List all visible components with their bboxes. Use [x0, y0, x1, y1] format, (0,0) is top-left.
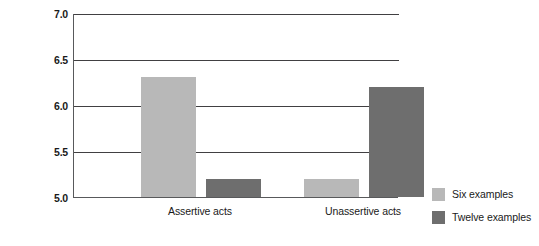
gridline	[74, 14, 399, 15]
gridline	[74, 106, 399, 107]
bar	[141, 77, 196, 197]
x-axis-category-label: Unassertive acts	[325, 205, 401, 217]
legend-item-label: Six examples	[452, 188, 513, 200]
light-gray-swatch-icon	[432, 188, 445, 201]
legend-item-label: Twelve examples	[452, 211, 531, 223]
gridline	[74, 152, 399, 153]
y-axis-tick-label: 7.0	[54, 8, 68, 20]
plot-area: 5.05.56.06.57.0	[73, 14, 398, 198]
y-axis-tick-label: 5.0	[54, 192, 68, 204]
legend-item: Twelve examples	[432, 207, 537, 227]
x-axis-category-label: Assertive acts	[168, 205, 232, 217]
gridline	[74, 60, 399, 61]
y-axis-title: Self-rated assertiveness	[14, 0, 32, 18]
bar-chart-figure: Self-rated assertiveness 5.05.56.06.57.0…	[0, 0, 539, 246]
bar	[304, 179, 359, 197]
dark-gray-swatch-icon	[432, 211, 445, 224]
y-axis-tick-label: 6.5	[54, 54, 68, 66]
y-axis-tick-label: 5.5	[54, 146, 68, 158]
y-axis-tick-label: 6.0	[54, 100, 68, 112]
chart-legend: Six examples Twelve examples	[432, 184, 537, 230]
bar	[369, 87, 424, 197]
y-axis-title-text: Self-rated assertiveness	[14, 0, 32, 18]
legend-item: Six examples	[432, 184, 537, 204]
bar	[206, 179, 261, 197]
